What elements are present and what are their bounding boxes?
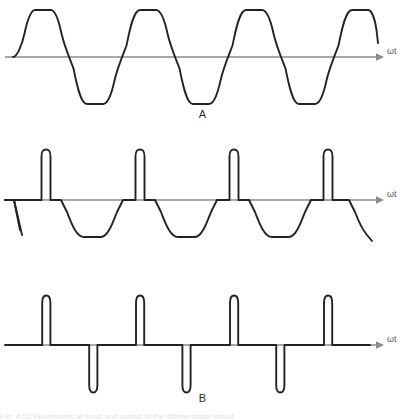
panel-label-a: A: [0, 108, 405, 120]
waveform-c-curve: [5, 296, 370, 393]
axis-arrowhead-c: [376, 341, 384, 349]
axis-label-a: ωt: [387, 46, 397, 56]
panel-b-clipped-sine: ωt B: [0, 140, 405, 275]
axis-label-b: ωt: [387, 189, 397, 199]
panel-c-svg: ωt: [0, 275, 405, 419]
panel-b-svg: ωt: [0, 140, 405, 275]
panel-a-axis: [5, 53, 384, 61]
panel-c-impulse-train: ωt C: [0, 275, 405, 419]
axis-arrowhead-b: [376, 196, 384, 204]
waveform-figure: ωt A ωt B ωt C Fig. 4.52 Wavefo: [0, 0, 405, 419]
figure-caption: Fig. 4.52 Waveforms at input and output …: [0, 412, 405, 419]
waveform-b-curve: [5, 150, 372, 242]
axis-label-c: ωt: [387, 334, 397, 344]
axis-arrowhead-a: [376, 53, 384, 61]
panel-a-sinusoid: ωt A: [0, 0, 405, 140]
